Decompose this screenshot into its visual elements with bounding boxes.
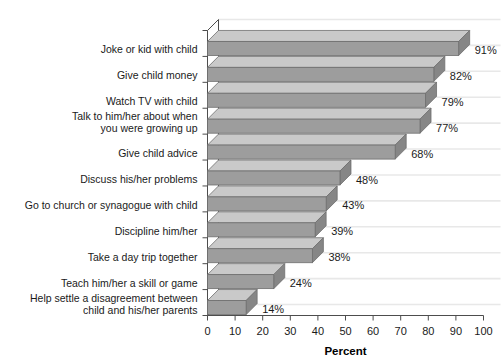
bar-group xyxy=(208,56,445,81)
category-label: Watch TV with child xyxy=(106,95,198,107)
axis-depth-top xyxy=(208,20,219,31)
x-tick-label: 90 xyxy=(450,325,462,337)
x-tick-label: 10 xyxy=(229,325,241,337)
x-tick-label: 70 xyxy=(395,325,407,337)
category-label: Help settle a disagreement between xyxy=(30,292,198,304)
bar-front-face xyxy=(208,67,434,81)
bar-top-face xyxy=(208,108,432,119)
bars-layer xyxy=(208,30,470,314)
bar-group xyxy=(208,108,432,133)
bar-front-face xyxy=(208,171,340,185)
bar-top-face xyxy=(208,212,327,223)
bar-group xyxy=(208,238,324,263)
bar-value-label: 38% xyxy=(328,251,350,263)
bar-top-face xyxy=(208,82,437,93)
bar-value-label: 79% xyxy=(442,96,464,108)
bar-group xyxy=(208,160,351,185)
bar-group xyxy=(208,186,338,211)
chart-canvas: Help settle a disagreement betweenchild … xyxy=(0,0,501,363)
bar-top-face xyxy=(208,238,324,249)
bar-top-face xyxy=(208,56,445,67)
bar-group xyxy=(208,264,285,289)
bar-value-label: 91% xyxy=(475,44,497,56)
x-tick-label: 20 xyxy=(257,325,269,337)
bar-value-label: 77% xyxy=(436,122,458,134)
bar-top-face xyxy=(208,134,407,145)
bar-value-label: 82% xyxy=(450,70,472,82)
x-tick-label: 80 xyxy=(422,325,434,337)
x-tick-label: 100 xyxy=(474,325,492,337)
category-label: Discuss his/her problems xyxy=(80,173,197,185)
bar-front-face xyxy=(208,93,426,107)
x-tick-label: 60 xyxy=(367,325,379,337)
x-axis-title: Percent xyxy=(324,345,366,357)
bar-top-face xyxy=(208,264,285,275)
bar-front-face xyxy=(208,119,421,133)
x-tick-label: 50 xyxy=(339,325,351,337)
bar-value-label: 14% xyxy=(262,303,284,315)
category-label: Joke or kid with child xyxy=(101,43,198,55)
category-label: Discipline him/her xyxy=(115,225,198,237)
bar-group xyxy=(208,290,258,315)
bar-front-face xyxy=(208,275,274,289)
bar-chart-figure: Help settle a disagreement betweenchild … xyxy=(0,0,501,363)
category-label: Talk to him/her about when xyxy=(72,110,198,122)
bar-front-face xyxy=(208,197,327,211)
bar-value-label: 24% xyxy=(290,277,312,289)
bar-value-label: 48% xyxy=(356,174,378,186)
bar-top-face xyxy=(208,186,338,197)
bar-front-face xyxy=(208,223,316,237)
category-labels-layer: Help settle a disagreement betweenchild … xyxy=(25,43,199,315)
bar-group xyxy=(208,212,327,237)
bar-front-face xyxy=(208,249,313,263)
x-tick-label: 40 xyxy=(312,325,324,337)
bar-top-face xyxy=(208,160,351,171)
bar-top-face xyxy=(208,30,470,41)
category-label: Give child money xyxy=(117,69,198,81)
category-label: Take a day trip together xyxy=(88,251,198,263)
category-label: Teach him/her a skill or game xyxy=(61,277,198,289)
bar-value-label: 43% xyxy=(342,199,364,211)
bar-value-label: 39% xyxy=(331,225,353,237)
category-label: child and his/her parents xyxy=(83,304,197,316)
bar-group xyxy=(208,134,407,159)
category-label: Go to church or synagogue with child xyxy=(25,199,198,211)
bar-group xyxy=(208,82,437,107)
bar-front-face xyxy=(208,145,396,159)
bar-front-face xyxy=(208,301,247,315)
category-label: you were growing up xyxy=(101,122,198,134)
x-tick-label: 0 xyxy=(204,325,210,337)
x-tick-label: 30 xyxy=(284,325,296,337)
x-tick-labels-layer: 0102030405060708090100 xyxy=(204,325,492,337)
category-label: Give child advice xyxy=(118,147,198,159)
bar-group xyxy=(208,30,470,55)
bar-front-face xyxy=(208,41,459,55)
axis-title-layer: Percent xyxy=(324,345,366,357)
bar-value-label: 68% xyxy=(411,148,433,160)
